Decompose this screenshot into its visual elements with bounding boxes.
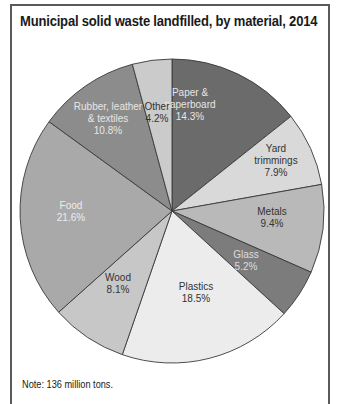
slice-label: Wood8.1% — [105, 272, 131, 295]
chart-note: Note: 136 million tons. — [22, 379, 113, 390]
slice-label: Other4.2% — [144, 101, 170, 124]
slice-label: Food21.6% — [57, 200, 85, 223]
slice-label: Glass5.2% — [233, 249, 259, 272]
slice-label: Plastics18.5% — [179, 281, 213, 304]
slice-label: Metals9.4% — [257, 206, 286, 229]
